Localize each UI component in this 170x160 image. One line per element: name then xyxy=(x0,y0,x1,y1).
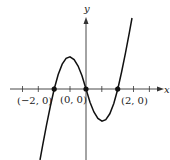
point-neg2-0 xyxy=(52,86,57,91)
point-label-2: (2, 0) xyxy=(121,95,148,106)
point-2-0 xyxy=(115,86,120,91)
y-axis-arrow-icon xyxy=(84,17,89,24)
point-label-neg2: (−2, 0) xyxy=(17,95,52,106)
x-axis-arrow-icon xyxy=(157,87,164,92)
x-axis-label: x xyxy=(164,84,170,95)
point-origin xyxy=(83,86,88,91)
graph: y x (−2, 0) (0, 0) (2, 0) xyxy=(0,0,170,160)
point-label-origin: (0, 0) xyxy=(60,94,87,105)
y-axis-label: y xyxy=(83,3,90,14)
